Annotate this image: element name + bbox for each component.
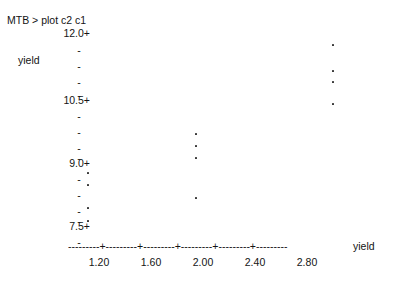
scatter-point bbox=[195, 133, 197, 135]
y-axis-tick-mark: - bbox=[68, 173, 90, 186]
scatter-point bbox=[195, 157, 197, 159]
y-axis-tick-mark: - bbox=[68, 76, 90, 89]
y-axis-major-tick: 10.5+ bbox=[0, 94, 90, 107]
y-axis-major-tick: 7.5+ bbox=[0, 220, 90, 233]
y-axis-caption: yield bbox=[18, 54, 40, 67]
y-axis-minor-tick: - bbox=[0, 189, 90, 202]
minitab-plot-output: MTB > plot c2 c1 12.0+----10.5+----9.0+-… bbox=[0, 0, 399, 285]
y-axis-minor-tick: - bbox=[0, 173, 90, 186]
y-axis-tick-label: 10.5+ bbox=[63, 94, 90, 107]
y-axis-minor-tick: - bbox=[0, 44, 90, 57]
x-axis-caption: yield bbox=[353, 240, 375, 253]
scatter-point bbox=[332, 44, 334, 46]
x-axis-tick-label: 1.60 bbox=[141, 256, 161, 269]
y-axis-tick-mark: - bbox=[68, 110, 90, 123]
x-axis-tick-labels: 1.201.602.002.402.80 bbox=[0, 256, 399, 269]
y-axis-tick-mark: - bbox=[68, 60, 90, 73]
scatter-point bbox=[332, 70, 334, 72]
y-axis-tick-mark: - bbox=[68, 126, 90, 139]
y-axis-tick-mark: - bbox=[68, 44, 90, 57]
y-axis-tick-label: 9.0+ bbox=[69, 157, 90, 170]
y-axis-minor-tick: - bbox=[0, 126, 90, 139]
y-axis-minor-tick: - bbox=[0, 60, 90, 73]
y-axis-tick-mark: - bbox=[68, 189, 90, 202]
y-axis-major-tick: 9.0+ bbox=[0, 157, 90, 170]
scatter-point bbox=[195, 197, 197, 199]
x-axis-line: ---------+---------+---------+---------+… bbox=[68, 240, 352, 253]
x-axis-tick-label: 2.40 bbox=[245, 256, 265, 269]
y-axis-tick-label: 12.0+ bbox=[63, 27, 90, 40]
y-axis-major-tick: 12.0+ bbox=[0, 27, 90, 40]
x-axis-tick-label: 1.20 bbox=[89, 256, 109, 269]
scatter-point bbox=[332, 81, 334, 83]
scatter-point bbox=[332, 103, 334, 105]
x-axis-tick-label: 2.80 bbox=[297, 256, 317, 269]
y-axis-tick-label: 7.5+ bbox=[69, 220, 90, 233]
scatter-point bbox=[195, 145, 197, 147]
y-axis-minor-tick: - bbox=[0, 76, 90, 89]
y-axis-minor-tick: - bbox=[0, 110, 90, 123]
x-axis-tick-label: 2.00 bbox=[193, 256, 213, 269]
